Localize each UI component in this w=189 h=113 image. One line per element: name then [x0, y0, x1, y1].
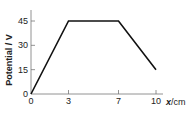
y-tick-label: 30	[18, 40, 28, 50]
y-tick-label: 15	[18, 65, 28, 75]
series-line	[31, 21, 156, 94]
x-tick-label: 10	[151, 96, 161, 106]
x-ticks: 03710	[28, 90, 161, 106]
y-axis-label: Potential / V	[4, 34, 14, 86]
y-tick-label: 45	[18, 16, 28, 26]
x-tick-label: 7	[116, 96, 121, 106]
x-axis-label: x/cm	[165, 97, 186, 107]
x-axis-label-unit: /cm	[171, 97, 186, 107]
y-tick-label: 0	[23, 89, 28, 99]
y-ticks: 0153045	[18, 16, 35, 99]
series	[31, 21, 156, 94]
chart: 0153045 03710 Potential / V x/cm	[0, 0, 189, 113]
x-tick-label: 0	[28, 96, 33, 106]
x-tick-label: 3	[66, 96, 71, 106]
